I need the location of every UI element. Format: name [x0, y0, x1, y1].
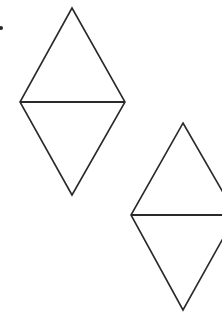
dot-marker	[0, 26, 3, 30]
diagram-canvas	[0, 0, 222, 334]
rhombus-2	[131, 123, 222, 310]
rhombus-2-outline	[131, 123, 222, 310]
rhombus-1	[20, 8, 125, 195]
